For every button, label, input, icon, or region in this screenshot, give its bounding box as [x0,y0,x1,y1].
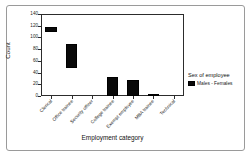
y-axis-title: Count [4,33,11,69]
y-axis-tick-label: 100 [30,35,38,40]
x-axis-title: Employment category [41,134,184,141]
chart-container: Count 020406080100120140 ClericalOffice … [0,0,252,158]
y-axis-tick-label: 120 [30,23,38,28]
y-axis-tick-mark [38,96,41,97]
y-axis-tick-labels: 020406080100120140 [20,14,38,96]
legend-title: Sex of employee [188,72,248,78]
legend: Sex of employee Males - Females [188,72,248,86]
legend-color-swatch [188,81,195,86]
bar [45,27,56,32]
y-axis-tick-label: 140 [30,12,38,17]
legend-entry-label: Males - Females [197,81,232,86]
bar [66,44,77,68]
legend-entry: Males - Females [188,81,248,86]
